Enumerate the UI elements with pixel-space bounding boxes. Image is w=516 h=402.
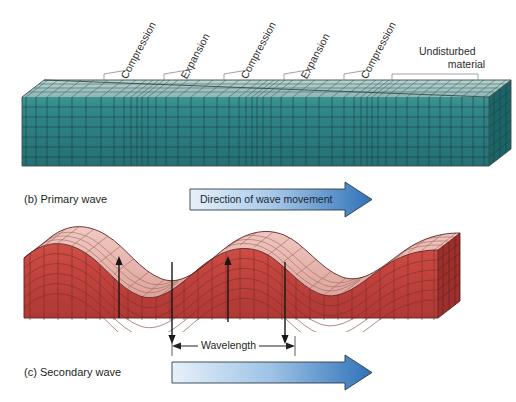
caption-primary-wave: (b) Primary wave	[24, 193, 107, 205]
undisturbed-material-line2: material	[419, 58, 514, 71]
caption-secondary-wave: (c) Secondary wave	[24, 366, 121, 378]
primary-wave-block	[22, 80, 511, 166]
direction-of-wave-movement-label: Direction of wave movement	[200, 194, 332, 205]
callout-leader-lines	[104, 70, 478, 80]
undisturbed-material-line1: Undisturbed	[419, 45, 516, 58]
secondary-wave-block	[24, 226, 460, 348]
secondary-direction-arrow	[172, 355, 372, 390]
wavelength-label: Wavelength	[198, 340, 259, 351]
